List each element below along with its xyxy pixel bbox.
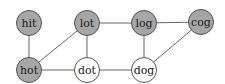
node-label: cog xyxy=(191,16,211,29)
nodes: hitlotlogcoghotdotdog xyxy=(17,10,214,83)
node-log: log xyxy=(132,11,157,36)
node-label: hit xyxy=(21,17,37,30)
node-dot: dot xyxy=(75,58,100,83)
word-ladder-graph: hitlotlogcoghotdotdog xyxy=(0,0,225,84)
node-label: hot xyxy=(20,64,39,77)
edges xyxy=(29,22,201,70)
node-label: dot xyxy=(78,64,97,77)
node-hit: hit xyxy=(17,11,42,36)
node-label: log xyxy=(135,17,152,30)
node-dog: dog xyxy=(132,58,157,83)
node-lot: lot xyxy=(75,11,100,36)
node-label: lot xyxy=(80,17,95,30)
node-hot: hot xyxy=(17,58,42,83)
node-cog: cog xyxy=(189,10,214,35)
node-label: dog xyxy=(134,64,155,77)
